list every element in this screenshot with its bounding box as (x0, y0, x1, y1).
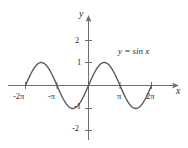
plot-canvas (0, 0, 188, 148)
x-axis-label: x (176, 86, 180, 96)
y-tick-label-2: 2 (75, 36, 79, 45)
x-tick-label-neg-2pi: -2π (13, 92, 24, 101)
sine-graph-figure: -2π -π π 2π 2 1 -1 -2 y x y = sin x (0, 0, 188, 148)
equation-annotation: y = sin x (118, 47, 149, 56)
x-tick-label-neg-pi: -π (48, 92, 55, 101)
y-tick-label-neg-2: -2 (72, 124, 79, 133)
x-tick-label-pi: π (117, 92, 121, 101)
y-tick-label-1: 1 (77, 58, 81, 67)
y-tick-label-neg-1: -1 (74, 102, 81, 111)
y-axis-label: y (79, 9, 83, 19)
x-tick-label-2pi: 2π (146, 92, 155, 101)
